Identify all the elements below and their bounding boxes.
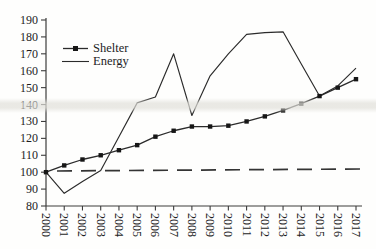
energy-legend-line-icon <box>62 56 89 67</box>
shelter-marker <box>299 102 303 106</box>
y-tick-label: 80 <box>26 199 38 213</box>
shelter-marker <box>317 94 321 98</box>
x-tick-label: 2003 <box>94 213 108 237</box>
shelter-marker <box>99 153 103 157</box>
legend: Shelter Energy <box>62 42 129 68</box>
shelter-marker <box>44 170 48 174</box>
shelter-marker <box>336 85 340 89</box>
reference-dashed-line <box>57 169 360 171</box>
legend-item-energy: Energy <box>62 55 129 68</box>
x-tick-label: 2013 <box>276 213 290 237</box>
x-tick-label: 2016 <box>331 213 345 237</box>
y-tick-label: 140 <box>20 98 38 112</box>
x-tick-label: 2014 <box>294 213 308 237</box>
shelter-marker <box>62 163 66 167</box>
shelter-marker <box>244 119 248 123</box>
x-tick-label: 2010 <box>221 213 235 237</box>
y-tick-label: 110 <box>20 148 38 162</box>
shelter-marker <box>263 114 267 118</box>
x-tick-label: 2001 <box>57 213 71 237</box>
x-tick-label: 2004 <box>112 213 126 237</box>
y-tick-label: 120 <box>20 131 38 145</box>
x-tick-label: 2009 <box>203 213 217 237</box>
y-tick-label: 150 <box>20 81 38 95</box>
shelter-legend-line-marker-icon <box>62 43 89 54</box>
x-tick-label: 2000 <box>39 213 53 237</box>
y-tick-label: 130 <box>20 114 38 128</box>
y-tick-label: 160 <box>20 64 38 78</box>
chart-canvas: 8090100110120130140150160170180190200020… <box>0 0 376 249</box>
cpi-index-line-chart: 8090100110120130140150160170180190200020… <box>0 0 376 249</box>
shelter-marker <box>80 157 84 161</box>
shelter-marker <box>135 143 139 147</box>
x-tick-label: 2007 <box>167 213 181 237</box>
y-tick-label: 190 <box>20 13 38 27</box>
shelter-marker <box>226 123 230 127</box>
x-tick-label: 2012 <box>258 213 272 237</box>
shelter-marker <box>190 124 194 128</box>
x-tick-label: 2017 <box>349 213 363 237</box>
series-line-shelter <box>46 79 356 172</box>
y-tick-label: 100 <box>20 165 38 179</box>
shelter-marker <box>354 77 358 81</box>
shelter-marker <box>208 124 212 128</box>
y-tick-label: 90 <box>26 182 38 196</box>
x-tick-label: 2006 <box>148 213 162 237</box>
shelter-marker <box>153 134 157 138</box>
shelter-marker <box>171 129 175 133</box>
shelter-marker <box>281 108 285 112</box>
y-tick-label: 180 <box>20 30 38 44</box>
x-tick-label: 2011 <box>240 213 254 237</box>
x-tick-label: 2002 <box>75 213 89 237</box>
x-tick-label: 2015 <box>313 213 327 237</box>
shelter-marker <box>117 148 121 152</box>
y-tick-label: 170 <box>20 47 38 61</box>
x-tick-label: 2008 <box>185 213 199 237</box>
x-tick-label: 2005 <box>130 213 144 237</box>
legend-label-energy: Energy <box>93 55 129 68</box>
